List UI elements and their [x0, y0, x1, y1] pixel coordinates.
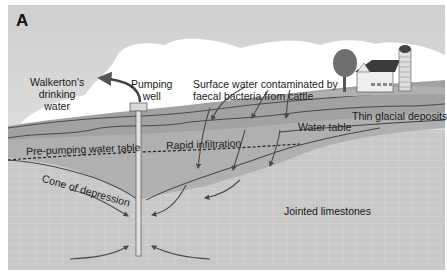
label-surface-water: Surface water contaminated by faecal bac… [193, 78, 338, 102]
label-pumping-well: Pumping well [131, 78, 172, 102]
label-line: well [131, 90, 172, 102]
label-line: Walkerton's [30, 76, 84, 88]
label-line: drinking [30, 88, 84, 100]
label-thin-glacial-deposits: Thin glacial deposits [352, 110, 447, 122]
silo [399, 45, 411, 91]
label-drinking-water: Walkerton's drinking water [30, 76, 84, 112]
label-jointed-limestones: Jointed limestones [284, 205, 371, 217]
aquifer-contamination-diagram: A Walkerton's drinking water Pumping wel… [0, 0, 447, 277]
label-line: Surface water contaminated by [193, 78, 338, 90]
label-line: water [30, 100, 84, 112]
label-line: faecal bacteria from cattle [193, 90, 338, 102]
panel-letter: A [16, 11, 28, 31]
label-line: Pumping [131, 78, 172, 90]
label-water-table: Water table [298, 121, 351, 133]
